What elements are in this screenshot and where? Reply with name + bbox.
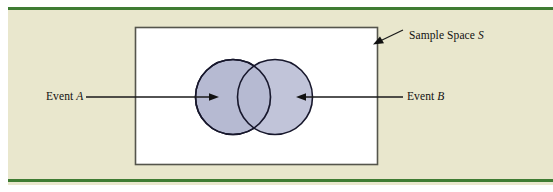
event-a-label-prefix: Event [46,90,76,102]
figure-root: Event A Event B Sample Space S [0,0,553,192]
sample-space-label-prefix: Sample Space [409,29,478,41]
sample-space-label: Sample Space S [409,29,484,41]
event-a-label: Event A [46,90,83,102]
event-b-label: Event B [407,90,444,102]
sample-space-label-symbol: S [478,29,484,41]
event-a-label-symbol: A [76,90,83,102]
event-b-label-symbol: B [437,90,444,102]
event-b-label-prefix: Event [407,90,437,102]
